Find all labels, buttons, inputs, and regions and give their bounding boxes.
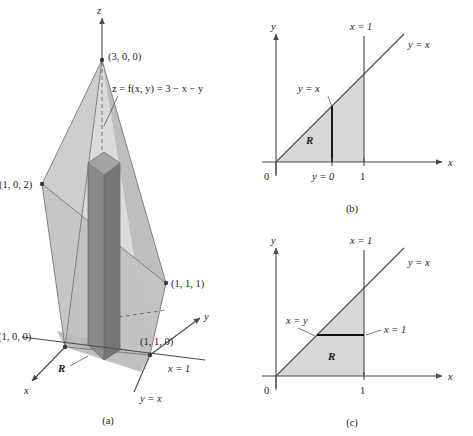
- point-label-102: (1, 0, 2): [0, 179, 33, 191]
- point-dot-apex: [100, 58, 104, 62]
- slice-left-label-c: x = y: [285, 315, 308, 326]
- column-left-face: [88, 163, 104, 360]
- line-y-equals-x-label-b: y = x: [407, 39, 430, 50]
- slice-right-leader-c: [366, 330, 381, 335]
- surface-equation-label: z = f(x, y) = 3 − x − y: [112, 83, 204, 95]
- axis-x-label-b: x: [447, 157, 453, 168]
- origin-label-b: 0: [264, 171, 269, 182]
- region-R-label-b: R: [305, 134, 313, 146]
- region-R-label-a: R: [57, 362, 65, 374]
- line-y-equals-x-label: y = x: [139, 393, 162, 404]
- origin-label-c: 0: [264, 385, 269, 396]
- region-R-label-c: R: [327, 350, 335, 362]
- axis-y-label-b: y: [270, 21, 276, 32]
- slice-top-leader-b: [328, 96, 332, 107]
- slice-top-label-b: y = x: [297, 83, 320, 94]
- line-x-equals-1-label-b: x = 1: [349, 21, 372, 32]
- line-x-equals-1-label: x = 1: [167, 363, 190, 374]
- axis-y-label-c: y: [270, 235, 276, 246]
- panel-b-vertical-slice: x y y = x x = 1 y = x 0 y = 0 1 R (b): [236, 4, 473, 220]
- panel-a-caption: (a): [102, 415, 114, 427]
- line-y-equals-x-label-c: y = x: [407, 257, 430, 268]
- figure-root: z y x: [0, 0, 473, 436]
- slice-right-label-c: x = 1: [383, 324, 406, 335]
- point-label-100: (1, 0, 0): [0, 331, 32, 343]
- tick-label-one-b: 1: [360, 171, 365, 182]
- line-x-equals-1-top-label-c: x = 1: [349, 235, 372, 246]
- panel-a-3d-view: z y x: [0, 0, 236, 436]
- point-dot-100: [63, 345, 67, 349]
- point-label-110: (1, 1, 0): [140, 336, 174, 348]
- panel-b-caption: (b): [346, 203, 359, 215]
- axis-x-label-c: x: [447, 371, 453, 382]
- axis-y-label: y: [203, 311, 209, 322]
- column-right-face: [104, 163, 120, 360]
- point-dot-110: [148, 353, 152, 357]
- tick-label-one-c: 1: [360, 385, 365, 396]
- point-dot-111: [164, 281, 168, 285]
- point-dot-102: [40, 182, 44, 186]
- slice-bottom-label-b: y = 0: [311, 171, 335, 182]
- point-label-apex: (3, 0, 0): [108, 51, 142, 63]
- slice-left-leader-c: [298, 328, 315, 336]
- panel-c-caption: (c): [346, 417, 358, 429]
- axis-x-label: x: [23, 385, 29, 396]
- region-R-leader-a: [70, 356, 88, 366]
- panel-c-horizontal-slice: x y y = x x = 1 x = y x = 1 0 1 R (c): [236, 218, 473, 436]
- point-label-111: (1, 1, 1): [171, 278, 205, 290]
- axis-z-label: z: [96, 5, 101, 16]
